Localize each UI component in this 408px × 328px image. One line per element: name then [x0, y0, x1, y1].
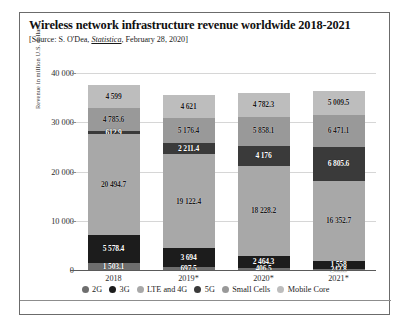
bar-value-label: 5 009.5 — [328, 99, 349, 107]
y-axis-tick-label: 20 000 — [14, 167, 74, 176]
bar-value-label: 406.5 — [255, 265, 271, 273]
x-axis-tick-label: 2019* — [154, 274, 224, 283]
bar-value-label: 5 858.1 — [253, 127, 274, 135]
legend-label: 5G — [205, 285, 215, 294]
legend-swatch-icon — [194, 286, 201, 293]
bar-segment[interactable]: 4 599 — [88, 85, 140, 108]
y-axis-tick-label: 40 000 — [14, 69, 74, 78]
legend-divider — [20, 300, 391, 301]
bar-value-label: 6 805.6 — [328, 160, 349, 168]
bar-value-label: 19 122.4 — [176, 198, 201, 206]
bar-value-label: 18 228.2 — [251, 207, 276, 215]
plot-area: Revenue in million U.S. dollars 010 0002… — [76, 73, 376, 270]
x-axis-tick-label: 2018 — [79, 274, 149, 283]
legend-item[interactable]: 2G — [82, 285, 103, 294]
legend-swatch-icon — [109, 286, 116, 293]
x-axis-tick-label: 2020* — [229, 274, 299, 283]
bar-segment[interactable]: 1 503.1 — [88, 263, 140, 270]
bar-segment[interactable]: 20 494.7 — [88, 134, 140, 235]
page-title: Wireless network infrastructure revenue … — [29, 18, 381, 33]
bar-segment[interactable]: 19 122.4 — [163, 154, 215, 248]
legend-item[interactable]: Small Cells — [222, 285, 270, 294]
bar-segment[interactable]: 18 228.2 — [238, 166, 290, 256]
bar-value-label: 16 352.7 — [326, 217, 351, 225]
bar-column[interactable]: 4 6215 176.42 211.419 122.43 694697.5 — [163, 95, 215, 270]
legend: 2G3GLTE and 4G5GSmall CellsMobile Core — [20, 285, 391, 294]
bar-value-label: 4 599 — [105, 93, 121, 101]
source-line: [Source: S. O'Dea, Statistica, February … — [29, 35, 381, 44]
bar-segment[interactable]: 5 858.1 — [238, 117, 290, 146]
bar-segment[interactable]: 5 009.5 — [313, 91, 365, 116]
bar-value-label: 3 694 — [180, 254, 196, 262]
y-axis-tick-label: 30 000 — [14, 118, 74, 127]
gridline — [76, 73, 376, 74]
legend-item[interactable]: LTE and 4G — [137, 285, 188, 294]
x-axis-tick-label: 2021* — [304, 274, 374, 283]
bar-segment[interactable]: 5 176.4 — [163, 118, 215, 143]
legend-item[interactable]: 5G — [194, 285, 215, 294]
source-publication: Statistica — [91, 35, 121, 44]
bar-segment[interactable]: 6 805.6 — [313, 147, 365, 181]
legend-item[interactable]: Mobile Core — [277, 285, 329, 294]
bar-column[interactable]: 5 009.56 471.16 805.616 352.71 558243.8 — [313, 91, 365, 270]
legend-item[interactable]: 3G — [109, 285, 130, 294]
y-axis-tick-label: 0 — [14, 266, 74, 275]
bar-segment[interactable]: 4 621 — [163, 95, 215, 118]
bar-segment[interactable]: 6 471.1 — [313, 115, 365, 147]
bar-segment[interactable]: 2 211.4 — [163, 143, 215, 154]
bar-value-label: 1 503.1 — [103, 263, 124, 271]
bar-segment[interactable]: 5 578.4 — [88, 235, 140, 262]
legend-swatch-icon — [277, 286, 284, 293]
y-axis-tick-label: 10 000 — [14, 216, 74, 225]
bar-value-label: 4 782.3 — [253, 101, 274, 109]
bar-segment[interactable]: 16 352.7 — [313, 181, 365, 262]
bar-column[interactable]: 4 782.35 858.14 17618 228.22 464.3406.5 — [238, 93, 290, 270]
bar-segment[interactable]: 4 782.3 — [238, 93, 290, 117]
bar-segment[interactable]: 4 176 — [238, 146, 290, 167]
source-suffix: , February 28, 2020] — [122, 35, 188, 44]
bar-value-label: 4 176 — [255, 152, 271, 160]
legend-swatch-icon — [82, 286, 89, 293]
bar-value-label: 20 494.7 — [101, 181, 126, 189]
bar-value-label: 2 211.4 — [178, 145, 199, 153]
bar-value-label: 4 785.6 — [103, 116, 124, 124]
legend-label: LTE and 4G — [147, 285, 187, 294]
legend-label: Small Cells — [232, 285, 270, 294]
y-axis-label: Revenue in million U.S. dollars — [34, 0, 41, 109]
bar-value-label: 5 578.4 — [103, 245, 124, 253]
legend-label: 2G — [92, 285, 102, 294]
chart-card: Wireless network infrastructure revenue … — [19, 12, 390, 315]
legend-swatch-icon — [222, 286, 229, 293]
legend-label: 3G — [120, 285, 130, 294]
legend-label: Mobile Core — [288, 285, 330, 294]
bar-value-label: 5 176.4 — [178, 127, 199, 135]
x-axis-line — [70, 270, 376, 271]
bar-value-label: 6 471.1 — [328, 127, 349, 135]
bar-column[interactable]: 4 5994 785.6612.920 494.75 578.41 503.1 — [88, 85, 140, 270]
legend-swatch-icon — [137, 286, 144, 293]
bar-value-label: 4 621 — [180, 103, 196, 111]
